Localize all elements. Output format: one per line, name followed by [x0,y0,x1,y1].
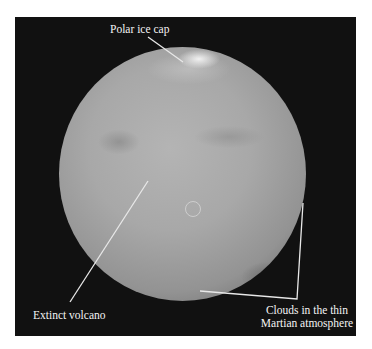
clouds-label-line2: Martian atmosphere [252,317,356,330]
leader-lines [15,17,356,336]
mars-photo-panel: Polar ice cap Extinct volcano Clouds in … [15,17,356,336]
polar-ice-cap-leader [148,37,183,62]
clouds-label: Clouds in the thin Martian atmosphere [252,304,356,330]
clouds-label-line1: Clouds in the thin [252,304,356,317]
clouds-leader [200,203,303,299]
polar-ice-cap-label: Polar ice cap [110,23,169,36]
extinct-volcano-label: Extinct volcano [33,309,106,322]
extinct-volcano-leader [70,181,148,302]
